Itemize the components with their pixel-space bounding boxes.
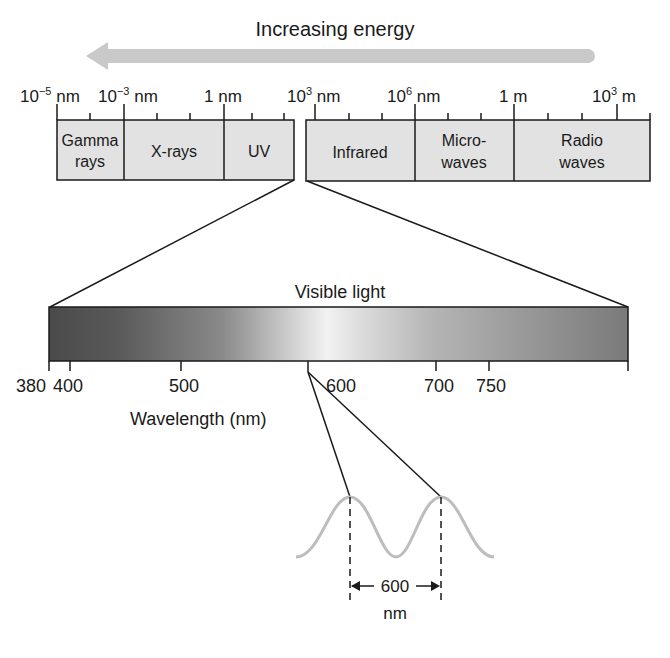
scale-label: 103 nm <box>287 85 340 106</box>
scale-label: 10−3 nm <box>98 85 158 106</box>
visible-axis <box>49 361 628 371</box>
spectrum-bands: Gamma rays X-rays UV Infrared Micro- wav… <box>57 104 650 181</box>
energy-title: Increasing energy <box>256 18 415 40</box>
arrow-left-icon <box>351 581 360 591</box>
energy-arrow-icon <box>86 42 595 70</box>
band-uv: UV <box>248 143 271 160</box>
scale-label: 106 nm <box>387 85 440 106</box>
tick-750: 750 <box>476 376 506 396</box>
tick-380: 380 <box>16 376 46 396</box>
scale-label: 10−5 nm <box>20 85 80 106</box>
wavelength-unit: nm <box>383 604 407 623</box>
band-xrays: X-rays <box>151 143 197 160</box>
band-radio-2: waves <box>558 154 604 171</box>
electromagnetic-spectrum-diagram: Increasing energy 10−5 nm 10−3 nm 1 nm 1… <box>0 0 670 658</box>
band-microwaves: Micro- <box>442 132 486 149</box>
scale-labels: 10−5 nm 10−3 nm 1 nm 103 nm 106 nm 1 m 1… <box>20 85 636 106</box>
tick-500: 500 <box>169 376 199 396</box>
wave-icon <box>296 497 494 557</box>
visible-light-title: Visible light <box>295 282 386 302</box>
band-microwaves-2: waves <box>440 154 486 171</box>
scale-label: 103 m <box>592 85 636 106</box>
wavelength-value: 600 <box>381 577 409 596</box>
scale-label: 1 nm <box>204 87 242 106</box>
tick-400: 400 <box>53 376 83 396</box>
wavelength-axis-label: Wavelength (nm) <box>130 409 266 429</box>
arrow-right-icon <box>431 581 440 591</box>
band-infrared: Infrared <box>332 144 387 161</box>
band-gamma-2: rays <box>75 153 105 170</box>
tick-700: 700 <box>424 376 454 396</box>
scale-label: 1 m <box>499 87 527 106</box>
band-gamma: Gamma <box>62 132 119 149</box>
band-radio: Radio <box>561 132 603 149</box>
visible-spectrum-bar <box>49 307 628 361</box>
